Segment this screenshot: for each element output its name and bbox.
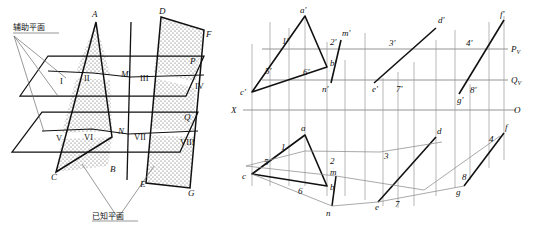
- front-label-5-prime: 5': [265, 66, 273, 76]
- front-label-e-prime: e': [372, 84, 379, 94]
- pictorial-label-VI: VI: [84, 132, 93, 142]
- top-label-m: m: [330, 167, 337, 177]
- axis-label-Qv: QV: [511, 75, 523, 86]
- pictorial-label-VII: VII: [134, 132, 146, 142]
- front-label-2-prime: 2': [330, 37, 338, 47]
- front-segment-ed: [374, 28, 436, 83]
- axis-label-O: O: [514, 105, 521, 115]
- mn-vertical-edge: [127, 22, 131, 180]
- top-label-e: e: [375, 202, 379, 212]
- label-auxiliary-plane: 辅助平面: [13, 22, 45, 32]
- top-label-4: 4: [489, 134, 494, 144]
- pictorial-label-C: C: [51, 172, 58, 182]
- front-triangle-abc: [252, 16, 327, 92]
- projection-diagram: PV QV O X a' b' c' d' e' f' g' m' n' 1' …: [230, 0, 540, 233]
- pictorial-label-G: G: [188, 188, 195, 198]
- front-view: [252, 16, 504, 94]
- front-label-a-prime: a': [300, 5, 308, 15]
- pictorial-label-Q: Q: [184, 112, 191, 122]
- front-label-c-prime: c': [240, 87, 247, 97]
- top-label-5: 5: [264, 157, 269, 167]
- pictorial-label-II: II: [84, 73, 90, 83]
- front-view-labels: a' b' c' d' e' f' g' m' n' 1' 2' 3' 4' 5…: [240, 5, 506, 105]
- axis-label-X: X: [230, 105, 237, 115]
- pictorial-label-III: III: [140, 73, 149, 83]
- top-label-c: c: [242, 171, 246, 181]
- label-given-plane: 已知平面: [92, 211, 124, 221]
- front-label-n-prime: n': [322, 84, 330, 94]
- pictorial-label-P: P: [189, 56, 196, 66]
- top-label-3: 3: [383, 151, 389, 161]
- axis-label-Pv: PV: [510, 44, 522, 55]
- top-view: [252, 133, 504, 206]
- top-segment-ed: [378, 137, 436, 202]
- pictorial-label-B: B: [110, 164, 116, 174]
- axis-captions: PV QV O X: [230, 44, 523, 115]
- front-label-4-prime: 4': [466, 38, 474, 48]
- front-label-f-prime: f': [500, 9, 506, 19]
- top-label-2: 2: [330, 156, 335, 166]
- auxiliary-plane-leaders: [14, 36, 66, 132]
- front-label-6-prime: 6': [303, 67, 311, 77]
- front-label-d-prime: d': [438, 15, 446, 25]
- top-label-g: g: [456, 187, 461, 197]
- front-label-7-prime: 7': [396, 84, 404, 94]
- front-segment-gf: [459, 20, 504, 94]
- pictorial-label-F: F: [205, 29, 212, 39]
- front-label-1-prime: 1': [282, 36, 290, 46]
- pictorial-label-M: M: [120, 69, 129, 79]
- top-label-6: 6: [298, 186, 303, 196]
- top-label-d: d: [437, 126, 442, 136]
- front-label-8-prime: 8': [470, 85, 478, 95]
- front-label-b-prime: b': [330, 58, 338, 68]
- top-label-1: 1: [281, 142, 286, 152]
- figure-root: 辅助平面 已知平面 A B C D E F G M N P Q I II III…: [0, 0, 540, 233]
- top-label-7: 7: [395, 199, 400, 209]
- pictorial-label-V: V: [56, 133, 63, 143]
- front-label-m-prime: m': [342, 28, 351, 38]
- pictorial-label-VIII: VIII: [180, 137, 195, 147]
- top-label-n: n: [326, 208, 331, 218]
- pictorial-label-I: I: [60, 76, 63, 86]
- pictorial-label-D: D: [158, 6, 166, 16]
- top-label-8: 8: [462, 172, 467, 182]
- pictorial-label-N: N: [117, 126, 125, 136]
- top-label-b: b: [330, 182, 335, 192]
- front-label-g-prime: g': [457, 95, 465, 105]
- pictorial-label-IV: IV: [195, 81, 205, 91]
- pictorial-label-A: A: [91, 9, 98, 19]
- reference-axes: [243, 49, 516, 110]
- front-label-3-prime: 3': [388, 38, 397, 48]
- pictorial-label-E: E: [139, 179, 146, 189]
- top-label-f: f: [505, 122, 509, 132]
- top-label-a: a: [301, 123, 306, 133]
- given-plane-leaders: [82, 164, 154, 218]
